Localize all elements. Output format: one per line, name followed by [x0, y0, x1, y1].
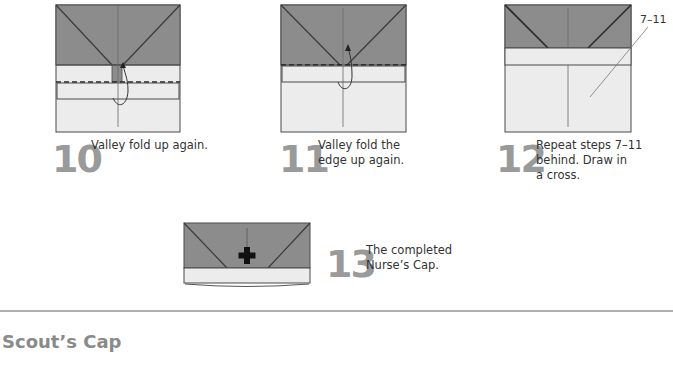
- step-11-instruction: Valley fold the edge up again.: [318, 138, 404, 168]
- step-10-diagram: [50, 0, 190, 140]
- section-title: Scout’s Cap: [2, 331, 121, 352]
- section-divider: [0, 310, 673, 312]
- step-11-diagram: [275, 0, 415, 140]
- step-12-instruction: Repeat steps 7–11 behind. Draw in a cros…: [536, 138, 642, 183]
- step-13-diagram: [180, 218, 315, 290]
- step-10-instruction: Valley fold up again.: [91, 138, 208, 153]
- step-13-instruction: The completed Nurse’s Cap.: [366, 243, 452, 273]
- step-12-reference-label: 7–11: [640, 13, 667, 26]
